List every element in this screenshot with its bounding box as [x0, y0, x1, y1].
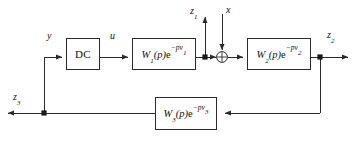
- block-dc[interactable]: DC: [66, 38, 100, 70]
- block-w2-label: W2(p)e−pν2: [257, 49, 302, 60]
- signal-label-z3: z3: [13, 91, 20, 102]
- block-diagram: DC W1(p)e−pν1 W2(p)e−pν2 W3(p)e−pν3 y u …: [0, 0, 355, 145]
- junction-dot-z1: [202, 54, 207, 59]
- signal-label-u: u: [110, 30, 115, 41]
- summing-junction: [217, 52, 228, 63]
- signal-label-y: y: [47, 30, 51, 41]
- block-w3-label: W3(p)e−pν3: [164, 108, 209, 119]
- block-w3[interactable]: W3(p)e−pν3: [155, 97, 217, 130]
- block-dc-label: DC: [75, 48, 91, 60]
- signal-label-z1: z1: [190, 5, 197, 16]
- signal-label-z2: z2: [327, 29, 334, 40]
- junction-dot-z3: [41, 110, 46, 115]
- block-w1-label: W1(p)e−pν1: [142, 49, 187, 60]
- junction-dot-z2: [317, 54, 322, 59]
- block-w2[interactable]: W2(p)e−pν2: [247, 38, 311, 70]
- block-w1[interactable]: W1(p)e−pν1: [132, 38, 196, 70]
- signal-label-x: x: [226, 4, 230, 15]
